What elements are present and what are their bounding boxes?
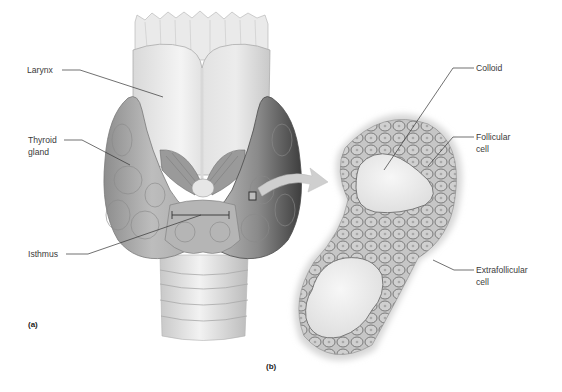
leader-extrafollicular-cell (433, 260, 474, 270)
panel-b-illustration (294, 114, 462, 360)
label-isthmus: Isthmus (28, 248, 58, 260)
panel-a-illustration (104, 11, 302, 341)
label-extrafollicular-cell: Extrafollicular cell (476, 264, 528, 288)
panel-label-a: (a) (28, 320, 38, 329)
label-thyroid-gland: Thyroid gland (28, 134, 57, 158)
figure-thyroid: Larynx Thyroid gland Isthmus Colloid Fol… (0, 0, 562, 392)
thyroid-illustration (0, 0, 562, 392)
panel-label-b: (b) (266, 362, 276, 371)
magnified-region-marker (249, 192, 256, 200)
label-follicular-cell: Follicular cell (476, 131, 510, 155)
label-colloid: Colloid (476, 62, 502, 74)
label-larynx: Larynx (27, 64, 53, 76)
